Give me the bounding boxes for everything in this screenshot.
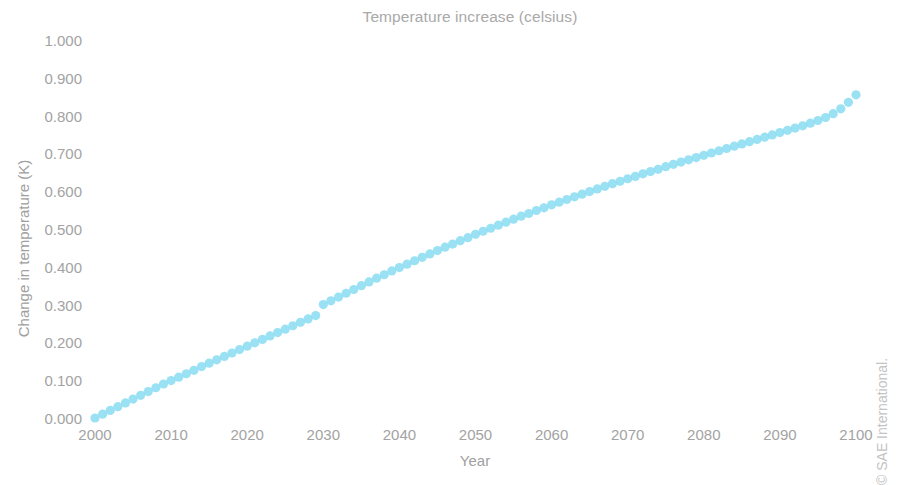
copyright-watermark: © SAE International.	[874, 295, 890, 485]
data-point-marker	[829, 109, 838, 118]
data-point-marker	[844, 98, 853, 107]
data-point-marker	[851, 90, 860, 99]
data-point-marker	[311, 311, 320, 320]
data-series	[90, 90, 860, 422]
data-point-marker	[836, 104, 845, 113]
